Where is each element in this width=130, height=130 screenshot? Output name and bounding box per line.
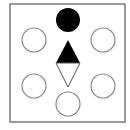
filled-triangle-icon [56, 40, 80, 63]
filled-circle-icon [56, 8, 80, 32]
outline-inverted-triangle-icon [56, 63, 80, 87]
outline-circle-icon-bottom-left [22, 74, 46, 98]
outline-circle-icon-top-right [91, 28, 115, 52]
outline-circle-icon-bottom-center [56, 92, 80, 116]
outline-circle-icon-top-left [22, 28, 46, 52]
diagram-canvas [0, 0, 130, 130]
puzzle-figure [0, 0, 130, 130]
outline-circle-icon-bottom-right [91, 74, 115, 98]
